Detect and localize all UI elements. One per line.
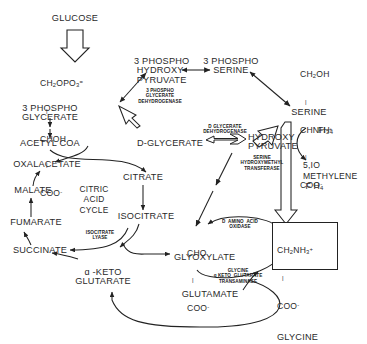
metabolite-oxalacetate: OXALACETATE xyxy=(13,160,81,169)
metabolite-acetyl-coa: ACETYL COA xyxy=(20,139,80,148)
metabolite-isocitrate: ISOCITRATE xyxy=(118,212,174,221)
metabolite-glyoxylate: GLYOXYLATE xyxy=(174,253,235,262)
metabolite-malate: MALATE xyxy=(14,186,51,195)
enzyme-serine-hydroxymethyl-transferase: SERINE HYDROXYMETHYL TRANSFERASE xyxy=(241,155,284,171)
arrow-pg-to-dglycerate xyxy=(119,106,140,128)
enzyme-glycine-transaminase: GLYCINE ɑ KETO GLUTARATE TRANSAMINASE xyxy=(214,268,263,284)
metabolite-succinate: SUCCINATE xyxy=(13,246,67,255)
enzyme-pg-dehydrogenase: 3 PHOSPHO GLYCERATE DEHYDROGENASE xyxy=(138,88,182,104)
metabolite-glucose: GLUCOSE xyxy=(52,14,98,23)
structure-glyoxylate: CHO | COO- xyxy=(187,228,209,333)
enzyme-isocitrate-lyase: ISOCITRATE LYASE xyxy=(86,230,114,241)
metabolite-glycine: GLYCINE xyxy=(277,331,318,343)
enzyme-glycerate-dehydrogenase: D GLYCERATE DEHYDROGENASE xyxy=(203,124,247,135)
metabolite-phosphoserine: 3 PHOSPHO SERINE xyxy=(203,57,258,76)
glx-bond1: | xyxy=(187,279,209,283)
metabolite-fumarate: FUMARATE xyxy=(10,218,61,227)
pg-line1: CH2OPO3= xyxy=(40,78,83,89)
arrow-malate-to-oxalacetate xyxy=(33,171,40,186)
metabolite-phosphoglycerate: 3 PHOSPHO GLYCERATE xyxy=(22,104,78,123)
gly-line1: CH2NH3+ xyxy=(277,245,318,256)
arrow-isocitrate-lyase-to-glyoxylate xyxy=(124,246,170,254)
arrow-phosphoserine-to-serine xyxy=(250,72,290,106)
metabolite-methylene-fh4: 5,IO METHYLENE F H4 xyxy=(303,160,357,193)
ser-bond1: | xyxy=(300,101,333,105)
metabolite-alpha-keto-glutarate: ɑ -KETO GLUTARATE xyxy=(75,268,131,287)
metabolite-phosphohydroxypyruvate: 3 PHOSPHO HYDROXY PYRUVATE xyxy=(134,57,189,85)
arrow-isocitrate-to-alphaketoglutarate xyxy=(120,224,139,247)
metabolite-hydroxypyruvate: HYDROXY PYRUVATE xyxy=(248,133,298,152)
metabolite-d-glycerate: D-GLYCERATE xyxy=(137,139,203,148)
metabolite-glutamate: GLUTAMATE xyxy=(182,290,239,299)
citric-acid-cycle-label: CITRIC ACID CYCLE xyxy=(79,184,108,215)
arrow-succinate-to-fumarate xyxy=(24,232,31,245)
metabolite-citrate: CITRATE xyxy=(123,173,163,182)
arrow-dglycerate-to-hydroxypyruvate xyxy=(206,134,246,144)
metabolite-serine: SERINE xyxy=(291,108,326,117)
metabolite-fh4: FH4 xyxy=(318,126,333,136)
structure-glycine: CH2NH3+ | COO- GLYCINE xyxy=(277,225,318,344)
arrow-hydroxypyruvate-to-glyoxylate xyxy=(196,153,232,226)
glx-line2: COO- xyxy=(187,303,209,313)
ser-line1: CH2OH xyxy=(300,69,333,80)
gly-line2: COO- xyxy=(277,301,318,311)
gly-bond1: | xyxy=(277,277,318,281)
enzyme-d-amino-acid-oxidase: D AMINO ACID OXIDASE xyxy=(222,219,258,230)
